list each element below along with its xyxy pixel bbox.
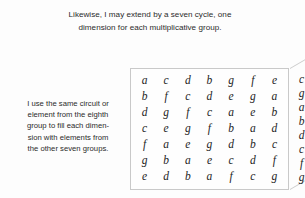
grid-cell: e xyxy=(266,74,283,87)
paragraph-line: I use the same circuit or xyxy=(8,98,128,109)
grid-cell: a xyxy=(201,170,218,183)
grid-cell: b xyxy=(293,115,305,128)
table-row: c d a a xyxy=(293,143,305,156)
table-row: b f c d e g a xyxy=(136,90,283,103)
table-row: d b g e xyxy=(293,129,305,142)
grid-cell: a xyxy=(244,122,261,135)
grid-cell: c xyxy=(293,73,305,86)
grid-cell: c xyxy=(179,90,196,103)
three-dimensional-letter-figure: a c d b g f e b f c d e g a xyxy=(128,4,305,196)
grid-cell: g xyxy=(266,170,283,183)
grid-cell: d xyxy=(201,90,218,103)
grid-cell: d xyxy=(266,122,283,135)
grid-cell: g xyxy=(244,90,261,103)
grid-cell: d xyxy=(136,106,153,119)
grid-cell: b xyxy=(266,106,283,119)
grid-cell: g xyxy=(158,106,175,119)
grid-cell: f xyxy=(244,74,261,87)
grid-cell: g xyxy=(293,171,305,184)
grid-cell: f xyxy=(223,170,240,183)
paragraph-line: sion with elements from xyxy=(8,132,128,143)
grid-cell: b xyxy=(179,170,196,183)
table-row: f a e g d b c xyxy=(136,138,283,151)
grid-cell: e xyxy=(223,90,240,103)
grid-cell: g xyxy=(223,74,240,87)
grid-cell: e xyxy=(244,106,261,119)
grid-cell: a xyxy=(179,154,196,167)
table-row: a c d b g f e xyxy=(136,74,283,87)
grid-cell: f xyxy=(201,122,218,135)
table-row: d g f c a e b xyxy=(136,106,283,119)
grid-cell: c xyxy=(266,138,283,151)
side-face-panel: c f d g c c f a f g c xyxy=(290,0,305,190)
grid-cell: c xyxy=(201,106,218,119)
grid-cell: c xyxy=(136,122,153,135)
grid-cell: a xyxy=(136,74,153,87)
table-row: b e e g xyxy=(293,115,305,128)
grid-cell: a xyxy=(158,138,175,151)
table-row: f c e b xyxy=(293,157,305,170)
front-face-panel: a c d b g f e b f c d e g a xyxy=(130,68,289,190)
table-row: a f g c xyxy=(293,101,305,114)
grid-cell: c xyxy=(158,74,175,87)
grid-cell: b xyxy=(223,122,240,135)
front-letter-grid: a c d b g f e b f c d e g a xyxy=(131,69,288,189)
paragraph-line: the other seven groups. xyxy=(8,143,128,154)
grid-cell: b xyxy=(244,138,261,151)
grid-cell: d xyxy=(223,138,240,151)
grid-cell: b xyxy=(201,74,218,87)
table-row: e d b a f c g xyxy=(136,170,283,183)
grid-cell: d xyxy=(179,74,196,87)
table-row: g c c f xyxy=(293,87,305,100)
grid-cell: f xyxy=(293,157,305,170)
grid-cell: d xyxy=(244,154,261,167)
grid-cell: d xyxy=(158,170,175,183)
grid-cell: c xyxy=(293,143,305,156)
table-row: g b a e c d f xyxy=(136,154,283,167)
grid-cell: f xyxy=(179,106,196,119)
grid-cell: c xyxy=(223,154,240,167)
grid-cell: f xyxy=(158,90,175,103)
grid-cell: e xyxy=(158,122,175,135)
grid-cell: a xyxy=(266,90,283,103)
paragraph-line: element from the eighth xyxy=(8,109,128,120)
grid-cell: g xyxy=(136,154,153,167)
grid-cell: a xyxy=(293,101,305,114)
grid-cell: a xyxy=(223,106,240,119)
grid-cell: g xyxy=(201,138,218,151)
grid-cell: b xyxy=(136,90,153,103)
grid-cell: g xyxy=(179,122,196,135)
table-row: c e g f b a d xyxy=(136,122,283,135)
grid-cell: e xyxy=(201,154,218,167)
grid-cell: f xyxy=(266,154,283,167)
grid-cell: e xyxy=(179,138,196,151)
explanatory-paragraph: I use the same circuit or element from t… xyxy=(8,98,128,154)
side-letter-grid: c f d g c c f a f g c xyxy=(290,69,305,189)
grid-cell: c xyxy=(244,170,261,183)
table-row: c f d xyxy=(293,73,305,86)
grid-cell: e xyxy=(136,170,153,183)
slide-canvas: Likewise, I may extend by a seven cycle,… xyxy=(0,0,305,198)
grid-cell: g xyxy=(293,87,305,100)
grid-cell: b xyxy=(158,154,175,167)
table-row: g f d d xyxy=(293,171,305,184)
grid-cell: d xyxy=(293,129,305,142)
paragraph-line: group to fill each dimen- xyxy=(8,120,128,131)
grid-cell: f xyxy=(136,138,153,151)
